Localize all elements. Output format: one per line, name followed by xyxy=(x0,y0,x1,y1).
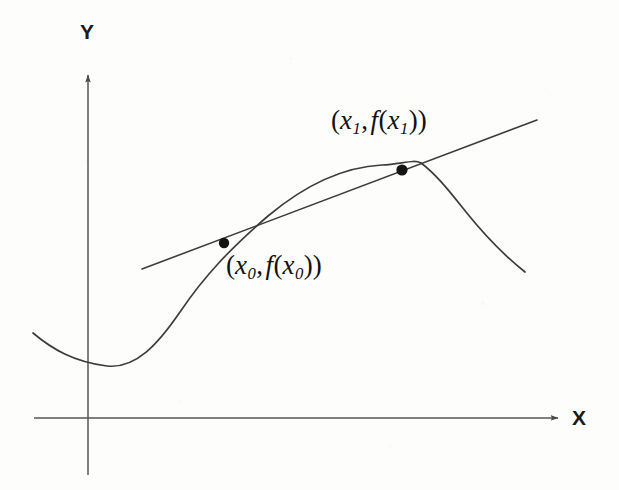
paren-open: ( xyxy=(331,105,340,135)
comma: , xyxy=(256,250,263,280)
x-axis-label: X xyxy=(572,406,587,430)
inner-paren-close: ) xyxy=(409,105,418,135)
variable-x: x xyxy=(235,250,247,280)
subscript-index: 1 xyxy=(352,119,360,138)
diagram-canvas xyxy=(0,0,619,490)
paren-close: ) xyxy=(418,105,427,135)
function-secant-diagram: Y X (x1, f(x1)) (x0, f(x0)) xyxy=(0,0,619,490)
secant-line xyxy=(142,120,537,269)
y-axis-label: Y xyxy=(80,20,95,44)
inner-variable-x: x xyxy=(387,105,399,135)
variable-x: x xyxy=(340,105,352,135)
inner-subscript-index: 0 xyxy=(295,264,303,283)
paren-open: ( xyxy=(226,250,235,280)
paren-close: ) xyxy=(313,250,322,280)
point-marker-x0 xyxy=(219,238,229,248)
inner-variable-x: x xyxy=(282,250,294,280)
comma: , xyxy=(361,105,368,135)
point-marker-x1 xyxy=(396,164,407,175)
inner-subscript-index: 1 xyxy=(400,119,408,138)
point-label-x1: (x1, f(x1)) xyxy=(331,105,427,139)
inner-paren-close: ) xyxy=(304,250,313,280)
subscript-index: 0 xyxy=(247,264,255,283)
point-label-x0: (x0, f(x0)) xyxy=(226,250,322,284)
